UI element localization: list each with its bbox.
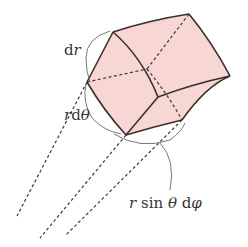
spherical-volume-element-diagram: dr rdθ r sin θ dφ (0, 0, 248, 247)
leader-r-sin-theta-dphi (160, 143, 172, 190)
label-dr-d: d (64, 41, 74, 59)
label-r-dtheta-theta: θ (81, 106, 90, 124)
label-rst-phi: φ (191, 194, 202, 212)
label-rst-d: d (182, 194, 192, 212)
label-dr-r: r (74, 41, 81, 59)
label-r-sin-theta-dphi: r sin θ dφ (129, 196, 202, 211)
volume-element-fill (87, 14, 230, 135)
radial-line-2 (40, 135, 126, 238)
radial-line-3 (65, 120, 182, 236)
label-rst-theta: θ (168, 194, 177, 212)
label-r-dtheta: rdθ (64, 108, 90, 123)
diagram-canvas (0, 0, 248, 247)
radial-line-1 (17, 82, 87, 216)
label-dr: dr (64, 43, 81, 58)
label-rst-sin: sin (136, 194, 168, 212)
label-r-dtheta-d: d (71, 106, 81, 124)
